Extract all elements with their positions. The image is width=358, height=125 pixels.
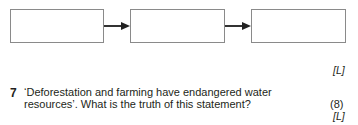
- question-text-line-1: ‘Deforestation and farming have endanger…: [24, 86, 272, 98]
- question-number: 7: [10, 86, 17, 100]
- flow-box-3[interactable]: [251, 9, 346, 43]
- flow-box-2[interactable]: [130, 9, 225, 43]
- flow-box-1[interactable]: [10, 9, 104, 43]
- level-marker: [L]: [333, 110, 345, 122]
- question-text-line-2: resources’. What is the truth of this st…: [24, 98, 251, 110]
- level-marker: [L]: [333, 64, 345, 76]
- arrow-right-icon: [104, 22, 130, 30]
- marks-value: (8): [330, 98, 343, 110]
- arrow-right-icon: [225, 22, 251, 30]
